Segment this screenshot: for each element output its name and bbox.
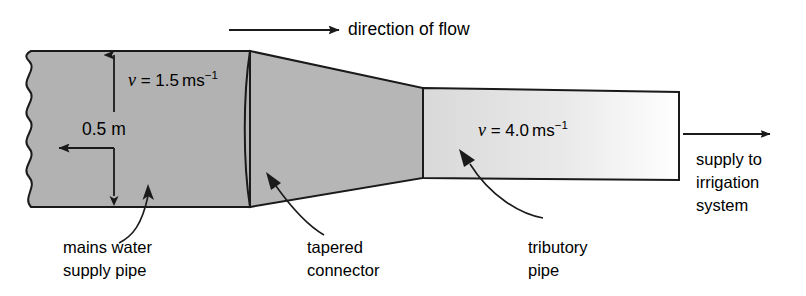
mains-velocity-label: v = 1.5ms−1	[128, 70, 218, 91]
pipe-flow-diagram: direction of flow v = 1.5ms−1 0.5 m v = …	[0, 0, 806, 296]
tapered-connector-label-line2: connector	[307, 261, 379, 280]
mains-water-supply-pipe-label-line2: supply pipe	[63, 261, 146, 280]
outlet-label-line3: system	[696, 196, 748, 215]
outlet-label-line1: supply to	[696, 150, 762, 169]
tributary-velocity-label: v = 4.0ms−1	[478, 120, 568, 141]
tributary-pipe-label-line1: tributory	[528, 238, 588, 257]
tapered-connector-label-line1: tapered	[307, 238, 363, 257]
outlet-label-line2: irrigation	[696, 173, 759, 192]
diameter-label: 0.5 m	[82, 119, 126, 140]
direction-of-flow-label: direction of flow	[348, 19, 470, 40]
tributary-pipe-label-line2: pipe	[528, 261, 559, 280]
mains-water-supply-pipe-label-line1: mains water	[63, 238, 152, 257]
